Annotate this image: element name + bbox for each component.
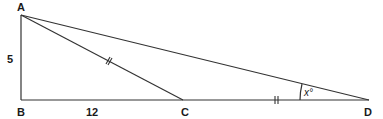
segment-ad — [21, 15, 369, 100]
angle-arc-d — [300, 84, 302, 100]
segment-ac — [21, 15, 183, 100]
triangle-diagram: A B C D 5 12 x° — [0, 0, 383, 119]
angle-label-d: x° — [303, 87, 313, 98]
length-label-ab: 5 — [7, 53, 13, 65]
vertex-label-d: D — [364, 106, 372, 118]
vertex-label-c: C — [181, 106, 189, 118]
vertex-label-b: B — [17, 106, 25, 118]
length-label-bc: 12 — [86, 106, 98, 118]
vertex-label-a: A — [17, 1, 25, 13]
